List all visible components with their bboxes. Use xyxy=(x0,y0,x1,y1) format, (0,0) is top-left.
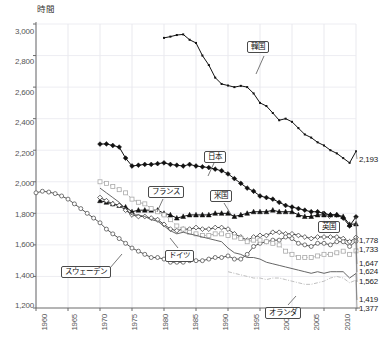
working-hours-line-chart: 時間 3,000 2,800 2,600 2,400 2,200 2,000 1… xyxy=(0,0,384,363)
plot-area xyxy=(0,0,384,363)
callout-korea: 韓国 xyxy=(247,41,269,53)
callout-sweden: スウェーデン xyxy=(61,266,111,278)
end-label-netherlands: 1,377 xyxy=(359,304,378,313)
end-label-japan: 1,778 xyxy=(359,236,378,245)
end-label-germany: 1,419 xyxy=(359,295,378,304)
end-label-france: 1,562 xyxy=(359,277,378,286)
callout-uk: 英国 xyxy=(318,221,340,233)
end-label-korea: 2,193 xyxy=(359,155,378,164)
end-label-sweden: 1,624 xyxy=(359,267,378,276)
callout-france: フランス xyxy=(148,186,184,198)
end-label-usa: 1,733 xyxy=(359,245,378,254)
callout-netherlands: オランダ xyxy=(265,307,301,319)
callout-germany: ドイツ xyxy=(165,250,194,262)
callout-usa: 米国 xyxy=(210,190,232,202)
callout-japan: 日本 xyxy=(204,151,226,163)
